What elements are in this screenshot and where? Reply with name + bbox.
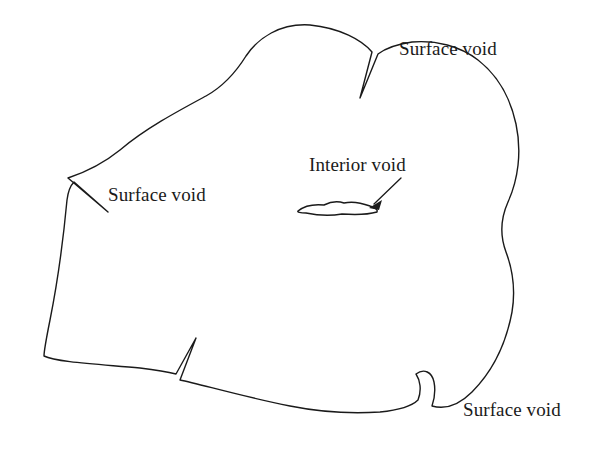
void-diagram-figure: Surface void Surface void Interior void …: [0, 0, 599, 451]
interior-void-arrow-head-icon: [369, 200, 382, 210]
solid-body-outline: [44, 25, 519, 413]
label-interior-void: Interior void: [309, 155, 406, 174]
diagram-canvas: [0, 0, 599, 451]
label-surface-void-top-right: Surface void: [399, 39, 497, 58]
interior-void-arrow-line: [374, 178, 401, 204]
label-surface-void-bottom-right: Surface void: [463, 400, 561, 419]
label-surface-void-left: Surface void: [108, 185, 206, 204]
interior-void-shape: [298, 202, 377, 215]
